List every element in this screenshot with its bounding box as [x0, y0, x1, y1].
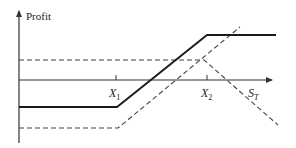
short-call-dashed-line — [19, 60, 278, 125]
payoff-diagram: Profit X1 X2 ST — [0, 0, 296, 148]
x1-tick-label: X1 — [108, 86, 120, 102]
x-axis-label: ST — [248, 86, 259, 102]
net-profit-solid-line — [19, 35, 276, 107]
y-axis-label: Profit — [26, 10, 51, 22]
x2-tick-label: X2 — [200, 86, 212, 102]
